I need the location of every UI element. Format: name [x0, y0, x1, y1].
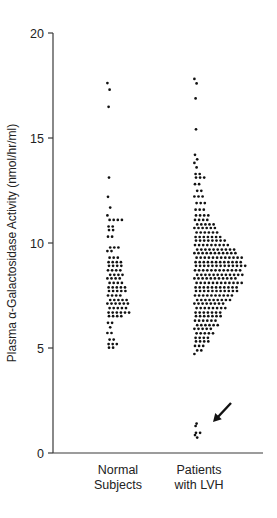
data-point: [107, 343, 110, 346]
data-point: [205, 227, 208, 230]
y-axis-label: Plasma α-Galactosidase Activity (nmol/hr…: [5, 124, 19, 362]
data-point: [225, 248, 228, 251]
data-point: [227, 261, 230, 264]
data-point: [195, 82, 198, 85]
data-points: [106, 78, 246, 439]
data-point: [195, 176, 198, 179]
data-point: [111, 235, 114, 238]
data-point: [194, 173, 197, 176]
data-point: [219, 290, 222, 293]
data-point: [113, 246, 116, 249]
data-point: [111, 294, 114, 297]
data-point: [212, 282, 215, 285]
data-point: [200, 349, 203, 352]
data-point: [127, 302, 130, 305]
arrow-icon: [217, 403, 231, 418]
data-point: [195, 166, 198, 169]
data-point: [124, 311, 127, 314]
data-point: [109, 299, 112, 302]
data-point: [112, 346, 115, 349]
data-point: [198, 345, 201, 348]
data-point: [212, 223, 215, 226]
data-point: [227, 264, 230, 267]
data-point: [219, 286, 222, 289]
data-point: [107, 235, 110, 238]
data-point: [109, 246, 112, 249]
data-point: [220, 299, 223, 302]
data-point: [108, 264, 111, 267]
data-point: [207, 311, 210, 314]
data-point: [211, 236, 214, 239]
data-point: [210, 294, 213, 297]
data-point: [207, 236, 210, 239]
data-point: [202, 236, 205, 239]
data-point: [108, 307, 111, 310]
data-point: [193, 195, 196, 198]
data-point: [197, 252, 200, 255]
data-point: [220, 248, 223, 251]
data-point: [200, 324, 203, 327]
data-point: [109, 206, 112, 209]
data-point: [193, 277, 196, 280]
data-point: [108, 338, 111, 341]
data-point: [206, 244, 209, 247]
data-point: [194, 183, 197, 186]
data-point: [234, 277, 237, 280]
data-point: [222, 302, 225, 305]
data-point: [116, 315, 119, 318]
data-point: [226, 277, 229, 280]
data-point: [199, 431, 202, 434]
data-point: [202, 244, 205, 247]
data-point: [219, 239, 222, 242]
y-axis: 05101520 Plasma α-Galactosidase Activity…: [5, 27, 53, 461]
data-point: [122, 302, 125, 305]
data-point: [195, 264, 198, 267]
data-point: [114, 277, 117, 280]
data-point: [208, 282, 211, 285]
data-point: [208, 223, 211, 226]
data-point: [108, 88, 111, 91]
data-point: [203, 231, 206, 234]
data-point: [212, 256, 215, 259]
data-point: [223, 290, 226, 293]
data-point: [107, 261, 110, 264]
data-point: [199, 282, 202, 285]
data-point: [115, 286, 118, 289]
data-point: [212, 231, 215, 234]
data-point: [203, 332, 206, 335]
data-point: [212, 332, 215, 335]
data-point: [202, 336, 205, 339]
data-point: [220, 307, 223, 310]
data-point: [196, 223, 199, 226]
data-point: [115, 311, 118, 314]
data-point: [203, 290, 206, 293]
data-point: [202, 319, 205, 322]
data-point: [106, 214, 109, 217]
data-point: [232, 282, 235, 285]
data-point: [218, 302, 221, 305]
data-point: [202, 311, 205, 314]
data-point: [196, 189, 199, 192]
data-point: [220, 273, 223, 276]
data-point: [239, 261, 242, 264]
data-point: [233, 248, 236, 251]
data-point: [195, 422, 198, 425]
data-point: [208, 307, 211, 310]
data-point: [220, 282, 223, 285]
data-point: [214, 244, 217, 247]
data-point: [194, 434, 197, 437]
data-point: [194, 425, 197, 428]
data-point: [214, 302, 217, 305]
data-point: [241, 273, 244, 276]
data-point: [222, 277, 225, 280]
data-point: [113, 299, 116, 302]
data-point: [117, 299, 120, 302]
data-point: [235, 269, 238, 272]
data-point: [110, 302, 113, 305]
data-point: [119, 269, 122, 272]
data-point: [194, 319, 197, 322]
data-point: [116, 219, 119, 222]
data-point: [229, 248, 232, 251]
data-point: [201, 302, 204, 305]
data-point: [231, 286, 234, 289]
